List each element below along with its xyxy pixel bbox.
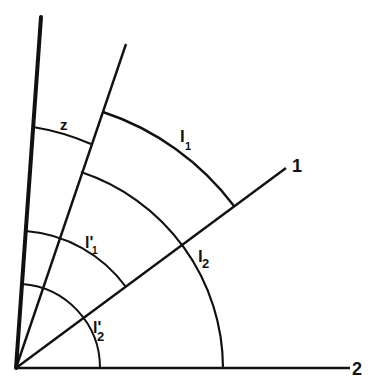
label-axis-1: 1 <box>292 156 302 176</box>
label-axis-2: 2 <box>352 359 362 379</box>
ray-line <box>16 44 126 368</box>
axis-1-line <box>16 168 286 368</box>
label-l1-prime-sub: 1 <box>92 245 98 256</box>
label-l2-prime-sub: 2 <box>97 329 104 344</box>
arc-l1-prime <box>26 231 126 287</box>
axis-3-line <box>16 17 41 368</box>
diagram-canvas: z l 1 1 l 2 l' 1 l' 2 2 <box>0 0 373 390</box>
label-l1-sub: 1 <box>185 140 191 152</box>
label-l2-sub: 2 <box>202 256 209 271</box>
label-z: z <box>60 116 68 133</box>
